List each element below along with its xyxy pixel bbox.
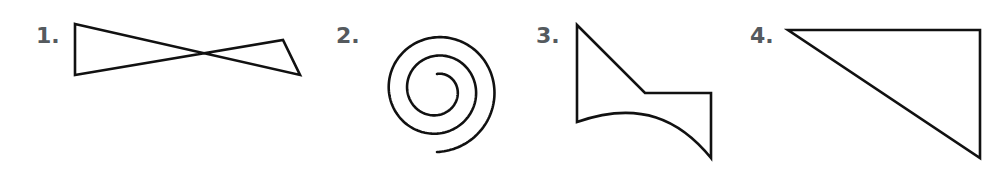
figure-1-bowtie-shape	[75, 24, 300, 75]
figures-canvas	[0, 0, 997, 173]
figure-3-curved-shape	[577, 25, 711, 158]
figure-2-spiral-shape	[389, 37, 495, 152]
figure-4-triangle-shape	[788, 30, 980, 158]
